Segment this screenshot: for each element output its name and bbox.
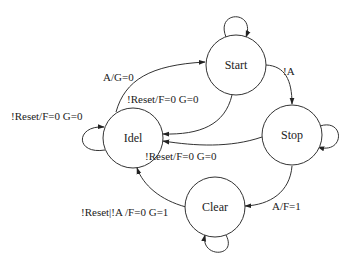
label-start-idel: !Reset/F=0 G=0 [127,93,199,105]
label-stop-idel: !Reset/F=0 G=0 [145,150,217,162]
self-loop-idel [82,127,105,151]
edge-clear-idel [137,168,186,207]
state-label: Stop [281,128,303,142]
self-loop-start [224,17,247,37]
label-clear-idel: !Reset|!A /F=0 G=1 [81,206,168,218]
self-loop-clear [205,235,229,252]
state-diagram: Start Idel Stop Clear A/G=0 !Reset/F=0 G… [0,0,351,269]
label-start-stop: !A [283,65,295,77]
state-label: Idel [124,131,143,145]
state-stop: Stop [262,105,322,165]
state-clear: Clear [185,177,245,237]
state-label: Start [225,58,248,72]
state-start: Start [206,35,266,95]
edge-stop-idel [163,137,262,145]
state-label: Clear [202,200,228,214]
label-stop-clear: A/F=1 [272,200,301,212]
label-idel-start: A/G=0 [103,71,134,83]
label-idel-self: !Reset/F=0 G=0 [11,110,83,122]
